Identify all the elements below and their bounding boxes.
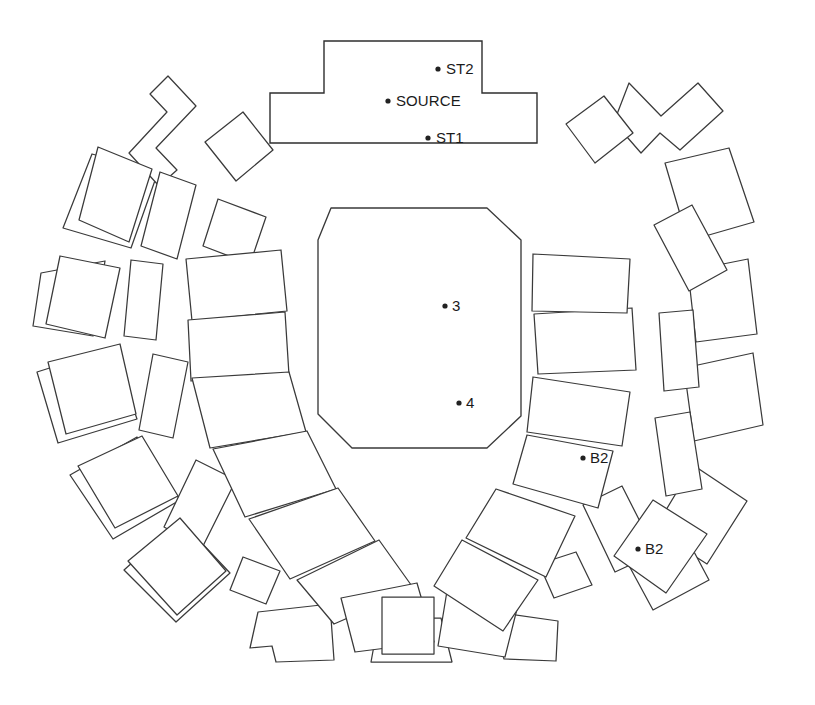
inner-block-e-upper — [534, 308, 636, 374]
marker-dot-b2-upper — [580, 455, 585, 460]
mid-block-ene-tall — [659, 310, 699, 391]
inner-block-s-center — [382, 597, 434, 654]
marker-dot-p4 — [456, 400, 461, 405]
diagram-root: ST2SOURCEST134B2B2 — [0, 0, 815, 705]
inner-block-ene — [532, 254, 630, 313]
facility-floorplan-svg: ST2SOURCEST134B2B2 — [0, 0, 815, 705]
marker-label-st1: ST1 — [436, 129, 464, 146]
marker-dot-source — [385, 98, 390, 103]
marker-label-b2-upper: B2 — [590, 449, 609, 466]
marker-dot-st2 — [435, 66, 440, 71]
marker-dot-b2-lower — [635, 546, 640, 551]
inner-block-w-upper — [186, 250, 287, 321]
marker-dot-p3 — [442, 303, 447, 308]
marker-label-b2-lower: B2 — [645, 540, 664, 557]
inner-block-w-lower — [188, 312, 289, 381]
marker-label-source: SOURCE — [396, 92, 461, 109]
inner-chamber — [318, 208, 521, 448]
marker-label-p3: 3 — [452, 297, 460, 314]
mid-block-w-tall — [124, 260, 163, 340]
marker-label-p4: 4 — [466, 394, 474, 411]
marker-dot-st1 — [425, 135, 430, 140]
marker-label-st2: ST2 — [446, 60, 474, 77]
